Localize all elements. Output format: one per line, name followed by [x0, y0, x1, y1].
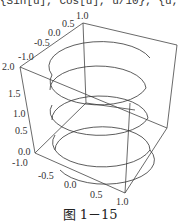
svg-text:1.5: 1.5: [8, 88, 21, 99]
svg-text:-1.0: -1.0: [18, 51, 34, 62]
svg-text:0.0: 0.0: [64, 179, 77, 190]
figure-caption: 图 1－15: [0, 204, 180, 223]
helix-plot: 1.0 0.5 0.0 -0.5 -1.0 2.0 1.5 1.0 0.5 0.…: [0, 0, 180, 224]
svg-text:0.5: 0.5: [90, 189, 103, 200]
svg-text:2.0: 2.0: [2, 61, 15, 72]
svg-text:-1.0: -1.0: [12, 157, 28, 168]
helix-curve: [49, 42, 155, 185]
svg-text:1.0: 1.0: [76, 10, 89, 21]
svg-text:-0.5: -0.5: [34, 37, 50, 48]
svg-text:0.0: 0.0: [48, 27, 61, 38]
z-axis-ticks: 2.0 1.5 1.0 0.5 0.0: [2, 61, 31, 157]
svg-text:-0.5: -0.5: [38, 170, 54, 181]
bounding-box: [20, 23, 177, 193]
x-axis-ticks: -1.0 -0.5 0.0 0.5 1.0: [12, 157, 129, 207]
svg-text:0.5: 0.5: [62, 18, 75, 29]
svg-text:0.5: 0.5: [15, 125, 28, 136]
y-axis-ticks: 1.0 0.5 0.0 -0.5 -1.0: [18, 10, 89, 62]
svg-text:0.0: 0.0: [18, 146, 31, 157]
svg-text:1.0: 1.0: [13, 108, 26, 119]
